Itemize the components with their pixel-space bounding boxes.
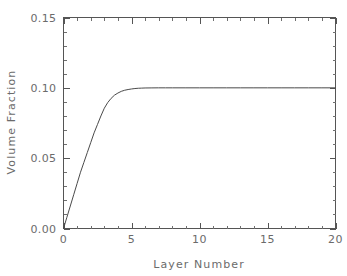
y-tick-label: 0.15	[30, 12, 56, 25]
chart-figure: 05101520 0.000.050.100.15 Layer Number V…	[0, 0, 347, 276]
x-tick-label: 0	[60, 233, 67, 246]
x-axis-title: Layer Number	[153, 258, 245, 271]
y-tick-label: 0.00	[30, 223, 56, 236]
x-tick-label: 5	[128, 233, 135, 246]
plot-canvas: 05101520 0.000.050.100.15 Layer Number V…	[0, 0, 347, 276]
x-tick-label: 20	[328, 233, 343, 246]
x-tick-label: 10	[192, 233, 207, 246]
y-tick-label: 0.05	[30, 152, 56, 165]
x-tick-label: 15	[260, 233, 275, 246]
y-tick-label: 0.10	[30, 82, 56, 95]
y-axis-title: Volume Fraction	[5, 70, 18, 175]
